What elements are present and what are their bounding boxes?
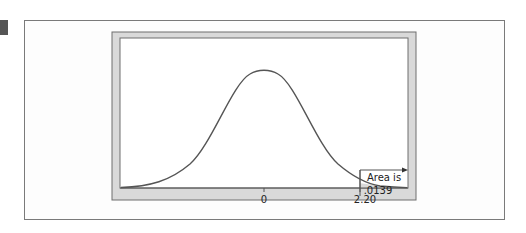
- area-label-line1: Area is: [367, 172, 401, 183]
- tick-label-zero: 0: [261, 194, 267, 205]
- normal-curve-chart: 0 2.20 Area is .0139: [0, 0, 526, 233]
- area-label-line2: .0139: [364, 185, 393, 196]
- plot-area: [120, 38, 408, 188]
